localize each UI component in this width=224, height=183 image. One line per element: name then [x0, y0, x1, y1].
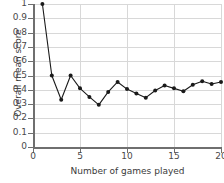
- y-tick-mark: [28, 118, 33, 119]
- y-tick-mark: [28, 4, 33, 5]
- y-tick-mark: [28, 76, 33, 77]
- gridline-vertical: [221, 4, 222, 147]
- data-point-marker: [40, 2, 44, 6]
- data-point-marker: [134, 91, 138, 95]
- line-chart: 00.10.20.30.40.50.60.70.80.91 05101520 N…: [0, 0, 224, 183]
- data-point-marker: [106, 90, 110, 94]
- data-point-marker: [200, 79, 204, 83]
- data-point-marker: [50, 74, 54, 78]
- data-point-marker: [59, 98, 63, 102]
- plot-area: [33, 4, 221, 147]
- y-axis-title: Overall mean score: [13, 13, 23, 133]
- x-axis-title: Number of games played: [33, 166, 222, 176]
- data-point-marker: [191, 83, 195, 87]
- data-point-marker: [116, 80, 120, 84]
- x-tick-label: 10: [121, 152, 132, 161]
- data-point-marker: [78, 86, 82, 90]
- data-point-marker: [87, 95, 91, 99]
- y-tick-mark: [28, 90, 33, 91]
- y-tick-mark: [28, 133, 33, 134]
- x-tick-label: 20: [215, 152, 224, 161]
- y-tick-mark: [28, 61, 33, 62]
- data-point-marker: [219, 80, 223, 84]
- y-axis-line: [33, 4, 35, 148]
- y-tick-mark: [28, 104, 33, 105]
- data-point-marker: [97, 103, 101, 107]
- y-tick-mark: [28, 18, 33, 19]
- data-series-layer: [33, 4, 221, 147]
- data-point-marker: [181, 89, 185, 93]
- y-tick-label: 1: [21, 0, 27, 8]
- x-tick-label: 0: [30, 152, 36, 161]
- x-tick-label: 15: [168, 152, 179, 161]
- data-point-marker: [172, 86, 176, 90]
- data-point-marker: [153, 89, 157, 93]
- data-point-marker: [163, 84, 167, 88]
- y-tick-mark: [28, 147, 33, 148]
- x-tick-label: 5: [77, 152, 83, 161]
- data-point-marker: [125, 87, 129, 91]
- data-point-marker: [144, 96, 148, 100]
- y-tick-label: 0: [21, 142, 27, 151]
- data-point-marker: [69, 74, 73, 78]
- y-tick-mark: [28, 47, 33, 48]
- series-line: [42, 4, 221, 105]
- data-point-marker: [210, 82, 214, 86]
- y-tick-mark: [28, 33, 33, 34]
